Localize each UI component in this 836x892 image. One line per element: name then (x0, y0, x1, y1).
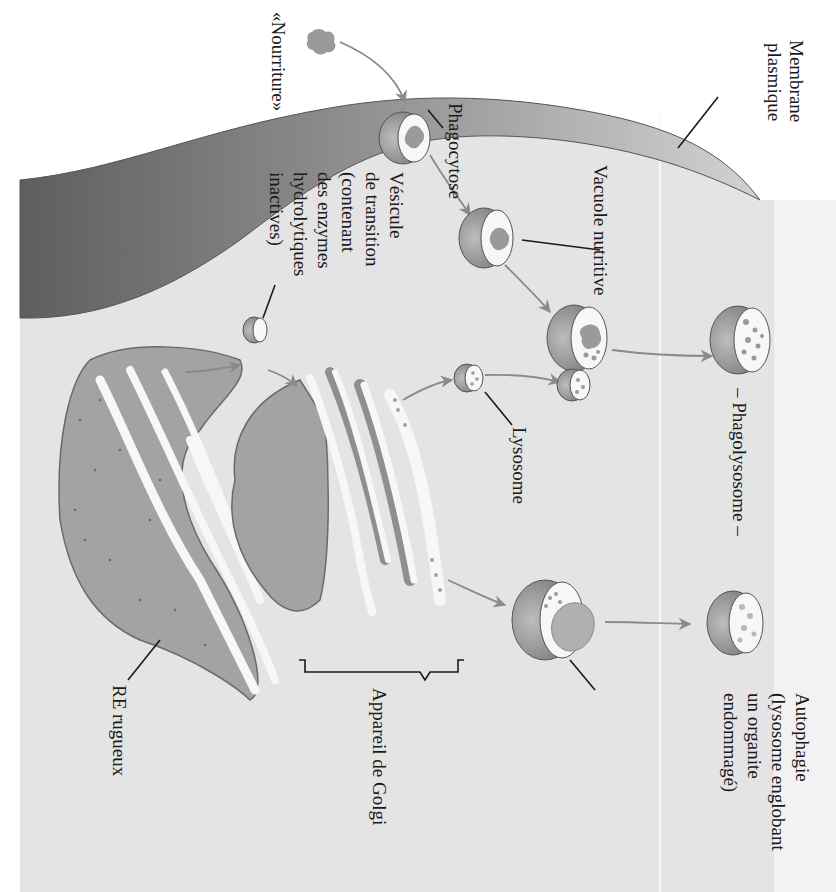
label-transport-vesicle-line6: inactives) (265, 172, 287, 246)
food-vacuole (459, 208, 513, 268)
label-golgi: Appareil de Golgi (369, 688, 390, 825)
phagocytosis-vesicle (379, 112, 430, 164)
label-autophagy-line1: Autophagie (792, 693, 813, 782)
label-autophagy-line2: (lysosome englobant (767, 693, 789, 852)
food-particle (307, 29, 336, 54)
label-autophagy-line4: endommagé) (719, 693, 741, 792)
label-lysosome: Lysosome (509, 427, 530, 504)
label-membrane-line1: Membrane (786, 40, 807, 122)
label-phagocytosis: Phagocytose (445, 103, 466, 199)
label-transport-vesicle-line5: hydrolytiques (290, 172, 311, 277)
label-food: «Nourriture» (268, 12, 289, 111)
label-phagolysosome: – Phagolysosome – (729, 387, 750, 536)
label-transport-vesicle-line1: Vésicule (386, 172, 407, 238)
lysosome-diagram: Membrane plasmique «Nourriture» Phagocyt… (0, 0, 836, 892)
phagolysosome-vesicle (710, 306, 770, 374)
label-food-vacuole: Vacuole nutritive (590, 165, 611, 295)
digested-autophagy-vesicle (707, 591, 763, 655)
label-rough-er: RE rugueux (109, 685, 130, 777)
label-transport-vesicle-line4: des enzymes (314, 172, 335, 269)
label-transport-vesicle-line2: de transition (362, 172, 383, 267)
transport-vesicle (243, 317, 267, 343)
label-autophagy-line3: un organite (744, 693, 765, 779)
label-membrane-line2: plasmique (764, 43, 785, 121)
label-transport-vesicle-line3: (contenant (337, 172, 359, 253)
lysosome (454, 364, 483, 392)
